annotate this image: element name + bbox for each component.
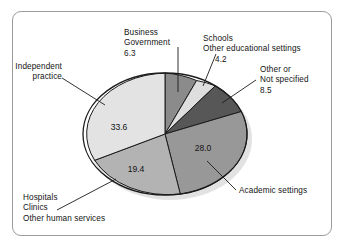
- callout-hospitals-clinics-line2: Clinics: [23, 203, 105, 213]
- callout-hospitals-clinics-line1: Hospitals: [23, 193, 105, 203]
- callout-other-not-specified: Other or Not specified 8.5: [260, 65, 309, 96]
- callout-independent-practice-line1: Independent: [0, 62, 62, 72]
- callout-business-government-line1: Business: [124, 28, 170, 38]
- slice-value-academic-settings: 28.0: [195, 143, 212, 153]
- callout-schools-value: 4.2: [203, 55, 301, 65]
- leader-line-other-not-specified: [222, 80, 256, 103]
- callout-schools-line1: Schools: [203, 34, 301, 44]
- callout-academic-settings-line1: Academic settings: [239, 186, 307, 196]
- callout-other-not-specified-line1: Other or: [260, 65, 309, 75]
- callout-business-government: Business Government 6.3: [124, 28, 170, 59]
- slice-value-hospitals-clinics: 19.4: [128, 164, 145, 174]
- slice-value-independent-practice: 33.6: [111, 122, 128, 132]
- callout-hospitals-clinics: Hospitals Clinics Other human services: [23, 193, 105, 224]
- leader-line-independent-practice: [62, 78, 105, 105]
- callout-academic-settings: Academic settings: [239, 186, 307, 196]
- callout-business-government-line2: Government: [124, 38, 170, 48]
- callout-schools-line2: Other educational settings: [203, 44, 301, 54]
- callout-independent-practice-line2: practice: [0, 72, 62, 82]
- callout-other-not-specified-line2: Not specified: [260, 75, 309, 85]
- callout-hospitals-clinics-line3: Other human services: [23, 214, 105, 224]
- callout-business-government-value: 6.3: [124, 49, 170, 59]
- pie-chart-figure: 33.6 19.4 28.0 Business Government 6.3 S…: [0, 0, 347, 250]
- callout-independent-practice: Independent practice: [0, 62, 62, 83]
- callout-other-not-specified-value: 8.5: [260, 86, 309, 96]
- callout-schools: Schools Other educational settings 4.2: [203, 34, 301, 65]
